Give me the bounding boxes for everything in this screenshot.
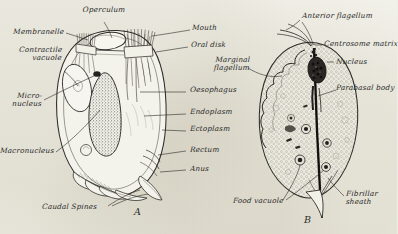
- label-contractile-vacuole: Contractile vacuole: [0, 46, 62, 62]
- label-parabasal-body: Parabasal body: [336, 84, 395, 92]
- figure-a-drawing: [57, 29, 167, 201]
- label-endoplasm: Endoplasm: [190, 108, 233, 116]
- figure-caption-a: A: [134, 206, 141, 217]
- label-fibrillar-sheath: Fibrillar sheath: [346, 190, 379, 206]
- figure-caption-b: B: [304, 214, 311, 225]
- label-oesophagus: Oesophagus: [190, 86, 237, 94]
- label-oral-disk: Oral disk: [191, 41, 226, 49]
- label-marginal-flagellum: Marginal flagellum: [196, 56, 251, 72]
- label-anus: Anus: [190, 165, 209, 173]
- figure-b-drawing: [259, 24, 358, 218]
- label-food-vacuole: Food vacuole: [233, 197, 284, 205]
- label-ectoplasm: Ectoplasm: [190, 125, 231, 133]
- label-membranelle: Membranelle: [0, 28, 64, 36]
- label-operculum: Operculum: [58, 6, 150, 14]
- label-nucleus: Nucleus: [336, 58, 368, 66]
- label-rectum: Rectum: [190, 146, 220, 154]
- label-macronucleus: Macronucleus: [0, 147, 54, 155]
- label-micronucleus: Micro- nucleus: [0, 92, 42, 108]
- label-anterior-flagellum: Anterior flagellum: [302, 12, 373, 20]
- label-mouth: Mouth: [192, 24, 217, 32]
- label-caudal-spines: Caudal Spines: [42, 203, 97, 211]
- label-centrosome-matrix: Centrosome matrix: [324, 40, 398, 48]
